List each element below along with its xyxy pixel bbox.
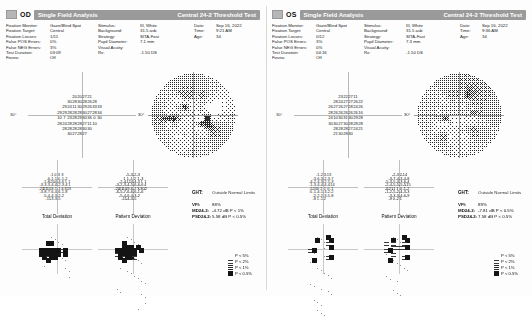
- threshold-numeric-grid-os: 30° 232227112824272726222627262728242628…: [294, 72, 402, 158]
- threshold-value: 30: [346, 131, 356, 136]
- probability-symbol: [143, 295, 148, 300]
- ght-row-os: GHT: Outside Normal Limits: [458, 190, 530, 198]
- probability-symbol: [395, 279, 400, 284]
- info-row: Rx:-1.50 DS: [98, 50, 194, 55]
- panel-os: OS Single Field Analysis Central 24-2 Th…: [266, 0, 532, 296]
- legend-label: P < 2%: [501, 259, 515, 264]
- probability-symbol: [67, 269, 72, 274]
- probability-legend-os: P < 5%P < 2%P < 1%P < 0.5%: [494, 252, 530, 276]
- probability-symbol: [118, 266, 123, 271]
- info-value: 7.3 mm: [406, 39, 420, 44]
- grayscale-axis-vertical: [193, 72, 194, 158]
- psd-row-od: PSD24-2: 5.58 dB P < 0.5%: [192, 214, 264, 220]
- info-key: Fovea:: [6, 55, 50, 60]
- threshold-value: 30: [95, 115, 105, 120]
- info-col-reliability-os: Fixation Monitor:Gaze/Blind SpotFixation…: [272, 23, 364, 61]
- psd-value-os: 7.58 dB P < 0.5%: [478, 214, 512, 220]
- total-deviation-numeric-os: -1-23-13-3-6-3-2-3-7-4-2-4-3-2-5-3-1-3-4…: [286, 158, 360, 216]
- ght-row-od: GHT: Outside Normal Limits: [192, 190, 264, 198]
- deviation-value: -5: [130, 197, 139, 201]
- grayscale-map-od: 30°: [146, 70, 240, 160]
- psd-label-od: PSD24-2:: [192, 214, 212, 220]
- grayscale-degree-label-od: 30°: [138, 112, 144, 117]
- probability-symbol: [405, 268, 410, 273]
- info-value: -1.50 DS: [140, 50, 157, 55]
- threshold-value: 16: [356, 110, 366, 115]
- probability-symbol: [322, 313, 327, 318]
- pattern-deviation-numeric-od: -5-3-2-311-121-3-2-4-12-4-4-311-3-2-3-4-…: [96, 158, 170, 216]
- legend-label: P < 0.5%: [235, 271, 252, 276]
- legend-symbol-icon: [494, 265, 499, 270]
- legend-symbol-icon: [228, 271, 233, 276]
- pattern-deviation-caption-od: Pattern Deviation: [96, 214, 170, 219]
- probability-symbol: [388, 277, 393, 282]
- total-deviation-caption-od: Total Deviation: [20, 214, 94, 219]
- probability-symbol: [312, 258, 317, 263]
- threshold-value: 28: [356, 115, 366, 120]
- eye-label-os: OS: [286, 10, 297, 19]
- total-deviation-probability-os: [286, 222, 360, 278]
- test-name-od: Central 24-2 Threshold Test: [177, 12, 256, 18]
- total-deviation-numeric-od: -1033-6-1-10-1-2-1-8-20-4-4-611-3-3-3-4-…: [20, 158, 94, 216]
- titlebar-od: OD Single Field Analysis Central 24-2 Th…: [6, 9, 260, 20]
- pattern-deviation-probability-od: [96, 222, 170, 278]
- probability-symbol: [139, 261, 144, 266]
- threshold-value: 30: [85, 126, 95, 131]
- probability-symbol: [329, 292, 334, 297]
- legend-item: P < 0.5%: [494, 270, 530, 276]
- info-col-datetime-od: Date:Sep 16, 2022Time:9:21 AMAge:34: [194, 23, 260, 61]
- legend-symbol-icon: [228, 259, 233, 264]
- probability-symbol: [143, 301, 148, 306]
- report-title-od: Single Field Analysis: [38, 12, 98, 18]
- ght-label-od: GHT:: [192, 190, 212, 198]
- probability-legend-od: P < 5%P < 2%P < 1%P < 0.5%: [228, 252, 264, 276]
- deviation-value: 2: [320, 197, 329, 201]
- info-key: Rx:: [98, 50, 140, 55]
- deviation-value: -5: [54, 197, 63, 201]
- info-value: 7.1 mm: [140, 39, 154, 44]
- grayscale-degree-label-os: 30°: [404, 112, 410, 117]
- probability-symbol: [136, 307, 141, 312]
- info-row: Fovea:Off: [272, 55, 364, 60]
- legend-label: P < 5%: [501, 253, 515, 258]
- threshold-value: 28: [90, 99, 100, 104]
- grayscale-axis-vertical: [459, 72, 460, 158]
- info-row: Age:34: [460, 34, 526, 39]
- threshold-value: 21: [85, 94, 95, 99]
- info-col-datetime-os: Date:Sep 16, 2022Time:9:36 AMAge:34: [460, 23, 526, 61]
- grayscale-map-os: 30°: [412, 70, 506, 160]
- legend-symbol-icon: [494, 253, 499, 258]
- psd-label-os: PSD24-2:: [458, 214, 478, 220]
- info-row: Age:34: [194, 34, 260, 39]
- title-band-os: Single Field Analysis Central 24-2 Thres…: [300, 10, 526, 20]
- legend-item: P < 0.5%: [228, 270, 264, 276]
- eye-swatch-icon: [272, 10, 283, 19]
- title-band-od: Single Field Analysis Central 24-2 Thres…: [34, 10, 260, 20]
- pattern-deviation-caption-os: Pattern Deviation: [362, 214, 436, 219]
- eye-swatch-icon: [6, 10, 17, 19]
- probability-symbol: [315, 252, 320, 257]
- ght-label-os: GHT:: [458, 190, 478, 198]
- total-deviation-caption-os: Total Deviation: [286, 214, 360, 219]
- pattern-deviation-probability-os: [362, 222, 436, 278]
- info-value: Off: [50, 55, 56, 60]
- info-key: Age:: [194, 34, 216, 39]
- info-row: Fovea:Off: [6, 55, 98, 60]
- info-key: Rx:: [364, 50, 406, 55]
- eye-label-od: OD: [20, 10, 31, 19]
- threshold-value: 22: [356, 99, 366, 104]
- probability-symbol: [398, 293, 403, 298]
- panel-od: OD Single Field Analysis Central 24-2 Th…: [0, 0, 266, 296]
- indices-block-od: GHT: Outside Normal Limits VFI: 88% MD24…: [192, 190, 264, 220]
- threshold-value: 21: [356, 126, 366, 131]
- psd-row-os: PSD24-2: 7.58 dB P < 0.5%: [458, 214, 530, 220]
- axis-degree-label-os: 30°: [276, 112, 282, 117]
- info-block-os: Fixation Monitor:Gaze/Blind SpotFixation…: [272, 23, 526, 61]
- probability-symbol: [56, 258, 61, 263]
- threshold-value: 26: [356, 104, 366, 109]
- probability-symbol: [67, 275, 72, 280]
- psd-value-od: 5.58 dB P < 0.5%: [212, 214, 246, 220]
- legend-symbol-icon: [228, 253, 233, 258]
- threshold-numeric-grid-od: 30° 202027213028302826282924113029263333…: [28, 72, 136, 158]
- threshold-value: 11: [351, 94, 361, 99]
